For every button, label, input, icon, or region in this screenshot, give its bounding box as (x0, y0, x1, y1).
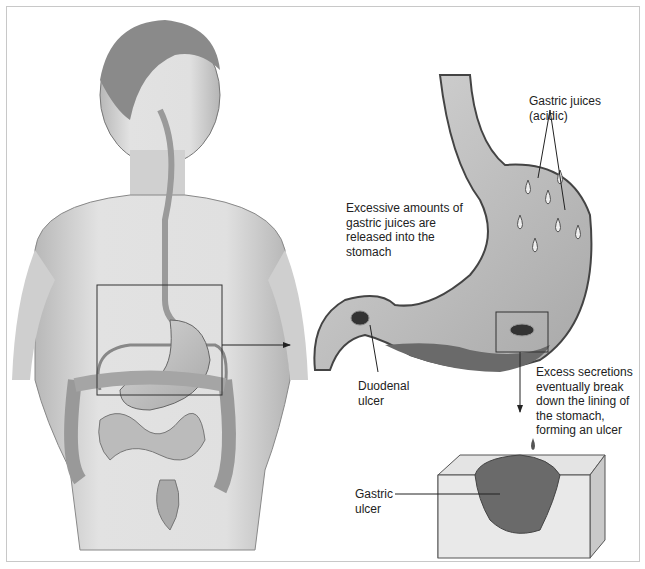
label-line: the stomach, (536, 409, 633, 424)
label-line: released into the (346, 230, 463, 245)
label-line: (acidic) (529, 109, 601, 124)
label-line: ulcer (355, 502, 393, 517)
label-line: down the lining of (536, 394, 633, 409)
label-line: Excess secretions (536, 365, 633, 380)
label-duodenal-ulcer: Duodenal ulcer (358, 379, 409, 408)
label-line: stomach (346, 245, 463, 260)
human-body (12, 20, 308, 550)
label-line: Gastric juices (529, 94, 601, 109)
label-line: ulcer (358, 394, 409, 409)
label-line: Gastric (355, 487, 393, 502)
label-excess-secretions: Excess secretions eventually break down … (536, 365, 633, 438)
label-gastric-juices: Gastric juices (acidic) (529, 94, 601, 123)
label-line: Excessive amounts of (346, 201, 463, 216)
tissue-block (395, 438, 605, 558)
label-line: Duodenal (358, 379, 409, 394)
label-gastric-ulcer: Gastric ulcer (355, 487, 393, 516)
label-line: gastric juices are (346, 216, 463, 231)
illustration (0, 0, 645, 569)
label-excessive-amounts: Excessive amounts of gastric juices are … (346, 201, 463, 259)
label-line: eventually break (536, 380, 633, 395)
label-line: forming an ulcer (536, 423, 633, 438)
